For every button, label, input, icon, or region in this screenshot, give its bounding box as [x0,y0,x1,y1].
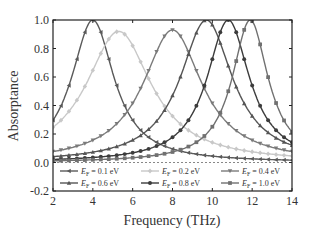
data-point-marker [186,151,190,155]
data-point-marker [258,104,262,108]
data-point-marker [194,104,198,108]
data-point-marker [282,158,286,162]
data-point-marker [282,119,286,123]
x-tick-label: 4 [90,194,96,208]
data-point-marker [226,89,230,93]
data-point-marker [139,155,143,159]
data-point-marker [147,147,151,151]
data-point-marker [266,151,270,156]
data-point-marker [115,153,119,157]
data-point-marker [67,159,71,163]
data-point-marker [266,75,270,79]
y-tick-label: 0.8 [34,42,49,56]
data-point-marker [242,156,246,160]
data-point-marker [274,128,278,132]
data-point-marker [170,93,174,97]
x-tick-label: 8 [170,194,176,208]
data-point-marker [163,152,167,156]
data-point-marker [250,84,254,88]
x-axis-label: Frequency (THz) [124,213,221,229]
data-point-marker [75,158,79,162]
x-tick-label: 10 [206,194,218,208]
data-point-marker [226,145,230,150]
data-point-marker [218,111,222,115]
data-point-marker [123,152,127,156]
data-point-marker [258,157,262,161]
data-point-marker [258,43,262,47]
data-point-marker [202,84,206,88]
data-point-marker [282,135,286,139]
y-tick-label: 1.0 [34,13,49,27]
x-tick-label: 2 [50,194,56,208]
data-point-marker [202,153,206,157]
data-point-marker [195,140,199,144]
data-point-marker [210,140,214,145]
data-point-marker [162,144,166,148]
data-point-marker [154,50,158,54]
data-point-marker [218,41,222,45]
data-point-marker [194,152,198,156]
data-point-marker [148,181,152,185]
data-point-marker [234,59,238,63]
data-point-marker [218,155,222,159]
data-point-marker [234,30,238,34]
data-point-marker [250,149,254,154]
data-point-marker [194,69,198,73]
series-line [53,20,292,161]
data-point-marker [234,156,238,160]
data-point-marker [226,64,230,68]
y-tick-label: 0.2 [34,127,49,141]
data-point-marker [155,144,159,148]
x-tick-label: 14 [286,194,298,208]
data-point-marker [83,158,87,162]
data-point-marker [258,150,262,155]
data-point-marker [218,30,222,34]
data-point-marker [59,159,63,163]
data-point-marker [274,158,278,162]
y-axis-label: Absorptance [6,71,21,142]
data-point-marker [282,153,286,158]
data-point-marker [99,158,103,162]
series-line [53,30,292,152]
data-point-marker [171,135,175,139]
data-point-marker [226,155,230,159]
data-point-marker [179,148,183,152]
data-point-marker [242,28,246,32]
y-tick-label: 0.6 [34,70,49,84]
x-tick-label: 6 [130,194,136,208]
data-point-marker [242,148,246,153]
x-tick-label: 12 [246,194,258,208]
data-point-marker [274,152,278,157]
data-point-marker [266,118,270,122]
data-point-marker [131,156,135,160]
data-point-marker [210,57,214,61]
data-point-marker [234,84,238,88]
data-point-marker [155,153,159,157]
data-point-marker [218,143,222,148]
data-point-marker [242,57,246,61]
data-point-marker [210,125,214,129]
data-point-marker [234,147,238,152]
y-tick-label: 0.0 [34,156,49,170]
data-point-marker [115,29,119,34]
data-point-marker [194,30,198,34]
data-point-marker [250,157,254,161]
y-tick-label: 0.4 [34,99,49,113]
data-point-marker [131,151,135,155]
data-point-marker [146,69,150,73]
data-point-marker [266,157,270,161]
series-curves [51,18,294,163]
data-point-marker [202,134,206,138]
data-point-marker [115,157,119,161]
data-point-marker [186,118,190,122]
absorptance-chart: EF = 0.1 eVEF = 0.2 eVEF = 0.4 eVEF = 0.… [0,0,313,237]
data-point-marker [274,101,278,105]
data-point-marker [178,74,182,78]
data-point-marker [228,181,232,185]
y-tick-label: -0.2 [30,184,49,198]
data-point-marker [139,149,143,153]
data-point-marker [147,154,151,158]
data-point-marker [171,150,175,154]
data-point-marker [178,128,182,132]
data-point-marker [123,156,127,160]
